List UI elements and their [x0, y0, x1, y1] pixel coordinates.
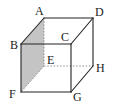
vertex-label-f: F — [9, 87, 16, 101]
vertex-label-b: B — [10, 38, 18, 52]
vertex-label-h: H — [96, 61, 105, 75]
edge-cd — [71, 18, 93, 44]
edge-gh — [71, 66, 93, 92]
vertex-label-g: G — [73, 90, 82, 104]
cube-diagram: A D B C E H F G — [0, 0, 113, 104]
vertex-label-d: D — [95, 5, 104, 19]
vertex-label-a: A — [35, 4, 44, 18]
vertex-label-e: E — [47, 53, 54, 67]
shaded-face-abfe — [21, 18, 44, 92]
vertex-label-c: C — [61, 30, 69, 44]
